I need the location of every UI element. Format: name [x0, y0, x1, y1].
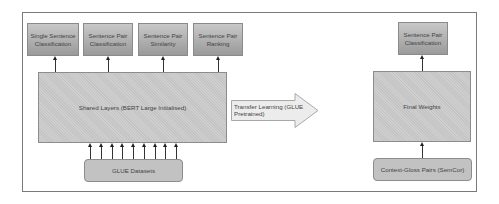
arrow-head-icon: [106, 56, 110, 60]
task-label: Sentence Pair Classification: [399, 31, 447, 47]
arrow-line: [163, 58, 164, 72]
arrow-head-icon: [110, 143, 114, 147]
arrow-line: [165, 145, 166, 159]
arrow-line: [155, 145, 156, 159]
arrow-line: [108, 58, 109, 72]
arrow-head-icon: [153, 143, 157, 147]
task-label: Sentence Pair Classification: [84, 32, 132, 48]
context-gloss-pairs-box: Context-Gloss Pairs (SemCor): [373, 158, 472, 181]
arrow-line: [133, 145, 134, 159]
transfer-learning-label: Transfer Learning (GLUE Pretrained): [234, 100, 306, 120]
task-sentence-pair-similarity: Sentence Pair Similarity: [138, 23, 188, 56]
arrow-head-icon: [53, 56, 57, 60]
task-label: Sentence Pair Ranking: [194, 32, 242, 48]
arrow-line: [218, 58, 219, 72]
arrow-line: [422, 57, 423, 71]
arrow-line: [101, 145, 102, 159]
context-gloss-pairs-label: Context-Gloss Pairs (SemCor): [381, 166, 465, 174]
arrow-line: [422, 144, 423, 158]
glue-datasets-box: GLUE Datasets: [84, 159, 183, 182]
arrow-head-icon: [131, 143, 135, 147]
arrow-line: [122, 145, 123, 159]
final-weights-label: Final Weights: [403, 103, 440, 111]
arrow-line: [144, 145, 145, 159]
arrow-head-icon: [88, 143, 92, 147]
final-weights-box: Final Weights: [373, 71, 471, 142]
task-sentence-pair-classification: Sentence Pair Classification: [83, 23, 133, 56]
arrow-head-icon: [161, 56, 165, 60]
glue-datasets-label: GLUE Datasets: [112, 167, 155, 175]
task-single-sentence-classification: Single Sentence Classification: [27, 23, 79, 56]
task-label: Single Sentence Classification: [28, 32, 78, 48]
arrow-head-icon: [163, 143, 167, 147]
shared-layers-label: Shared Layers (BERT Large Initialised): [79, 104, 186, 112]
arrow-head-icon: [142, 143, 146, 147]
shared-layers-box: Shared Layers (BERT Large Initialised): [38, 72, 227, 143]
arrow-head-icon: [420, 55, 424, 59]
arrow-line: [55, 58, 56, 72]
arrow-head-icon: [120, 143, 124, 147]
task-right-sentence-pair-classification: Sentence Pair Classification: [398, 22, 448, 55]
arrow-head-icon: [99, 143, 103, 147]
arrow-line: [112, 145, 113, 159]
arrow-head-icon: [420, 142, 424, 146]
task-sentence-pair-ranking: Sentence Pair Ranking: [193, 23, 243, 56]
arrow-line: [90, 145, 91, 159]
arrow-head-icon: [174, 143, 178, 147]
arrow-head-icon: [216, 56, 220, 60]
arrow-line: [176, 145, 177, 159]
task-label: Sentence Pair Similarity: [139, 32, 187, 48]
